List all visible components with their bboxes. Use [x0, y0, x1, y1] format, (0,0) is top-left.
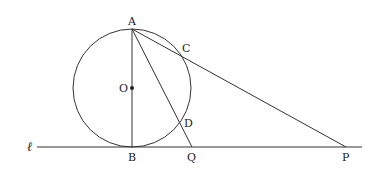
- label-d: D: [184, 117, 193, 130]
- label-q: Q: [187, 151, 196, 164]
- geometry-diagram: A C O D B Q P ℓ: [0, 0, 380, 171]
- label-o: O: [119, 82, 128, 95]
- label-a: A: [127, 15, 137, 28]
- label-p: P: [342, 151, 350, 164]
- segment-ap: [132, 29, 346, 147]
- label-line-l: ℓ: [27, 139, 33, 154]
- label-c: C: [182, 42, 190, 55]
- label-b: B: [128, 151, 136, 164]
- center-point-o: [130, 86, 134, 90]
